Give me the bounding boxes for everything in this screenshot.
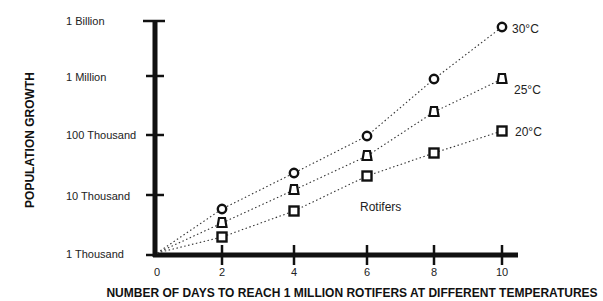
circle-marker-icon xyxy=(290,169,298,177)
x-axis xyxy=(153,245,518,265)
y-axis xyxy=(143,20,165,257)
line-25c xyxy=(157,79,502,253)
y-tick-1-thousand: 1 Thousand xyxy=(66,248,124,260)
circle-marker-icon xyxy=(430,75,438,83)
circle-marker-icon xyxy=(218,205,226,213)
trapezoid-marker-icon xyxy=(218,218,227,227)
series-label-25c: 25°C xyxy=(514,83,541,97)
y-tick-1-million: 1 Million xyxy=(66,71,106,83)
y-tick-1-billion: 1 Billion xyxy=(66,15,105,27)
y-axis-title: POPULATION GROWTH xyxy=(23,72,37,208)
markers-20c xyxy=(218,127,507,242)
line-30c xyxy=(157,27,502,253)
trapezoid-marker-icon xyxy=(290,185,299,194)
series-label-30c: 30°C xyxy=(512,22,539,36)
x-tick-2: 2 xyxy=(219,266,225,278)
square-marker-icon xyxy=(218,233,227,242)
trapezoid-marker-icon xyxy=(498,74,507,83)
x-tick-8: 8 xyxy=(431,266,437,278)
trapezoid-marker-icon xyxy=(430,107,439,116)
x-tick-labels: 0 2 4 6 8 10 xyxy=(154,266,508,278)
square-marker-icon xyxy=(498,127,507,136)
rotifer-growth-chart: POPULATION GROWTH 1 Billion 1 Million 10… xyxy=(0,0,603,301)
x-tick-6: 6 xyxy=(364,266,370,278)
markers-30c xyxy=(218,23,506,213)
square-marker-icon xyxy=(363,172,372,181)
x-tick-4: 4 xyxy=(291,266,297,278)
y-tick-10-thousand: 10 Thousand xyxy=(66,190,130,202)
x-axis-title: NUMBER OF DAYS TO REACH 1 MILLION ROTIFE… xyxy=(106,286,597,300)
line-20c xyxy=(157,131,502,253)
trapezoid-marker-icon xyxy=(363,151,372,160)
x-tick-0: 0 xyxy=(154,266,160,278)
circle-marker-icon xyxy=(363,132,371,140)
y-tick-100-thousand: 100 Thousand xyxy=(66,129,136,141)
y-tick-labels: 1 Billion 1 Million 100 Thousand 10 Thou… xyxy=(66,15,136,260)
circle-marker-icon xyxy=(498,23,506,31)
x-tick-10: 10 xyxy=(496,266,508,278)
series-lines xyxy=(157,27,502,253)
rotifers-annotation: Rotifers xyxy=(360,200,401,214)
square-marker-icon xyxy=(290,207,299,216)
series-label-20c: 20°C xyxy=(515,125,542,139)
square-marker-icon xyxy=(430,149,439,158)
